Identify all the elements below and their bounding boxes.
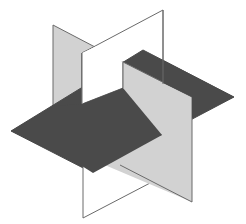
dark-plane-left [11, 104, 82, 166]
diagram-canvas [0, 0, 246, 224]
dark-plane-right-tip [192, 75, 234, 118]
intersecting-planes-diagram [0, 0, 246, 224]
